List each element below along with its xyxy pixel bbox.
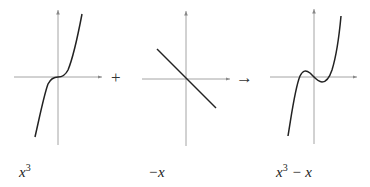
label-sum: x3 − x xyxy=(276,163,312,180)
curve-x-cubed xyxy=(35,14,82,137)
label-cube: x3 xyxy=(19,163,31,180)
plus-operator: + xyxy=(111,69,121,86)
curve-x-cubed-minus-x xyxy=(288,16,341,136)
line-neg-x xyxy=(157,49,216,108)
arrow-operator: → xyxy=(236,69,253,86)
diagram-canvas xyxy=(0,0,370,187)
panel-sum xyxy=(270,9,357,144)
panel-cube xyxy=(14,10,102,145)
label-neg-x: −x xyxy=(148,165,165,180)
panel-neg-x xyxy=(142,11,230,146)
